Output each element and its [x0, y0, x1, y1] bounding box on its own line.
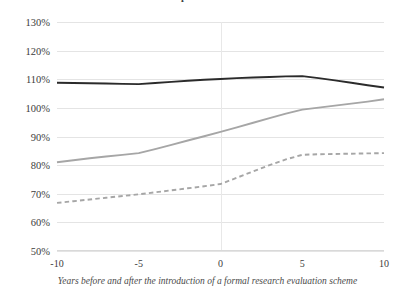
x-axis-caption: Years before and after the introduction … — [0, 276, 415, 286]
y-tick-label: 130% — [26, 17, 51, 28]
x-tick-label: 5 — [300, 258, 305, 269]
x-tick-label: -5 — [135, 258, 143, 269]
series-lines — [57, 22, 384, 251]
y-tick-label: 110% — [26, 74, 50, 85]
y-tick-label: 60% — [31, 217, 50, 228]
y-tick-label: 90% — [31, 131, 50, 142]
series-line-middle-group — [57, 99, 384, 162]
y-tick-label: 50% — [31, 246, 50, 257]
y-tick-label: 80% — [31, 160, 50, 171]
x-tick-label: 10 — [379, 258, 389, 269]
y-tick-label: 120% — [26, 45, 51, 56]
plot-area: 50%60%70%80%90%100%110%120%130% -10-5051… — [57, 22, 384, 251]
series-line-top-group — [57, 76, 384, 87]
series-line-bottom-group — [57, 153, 384, 203]
y-tick-label: 100% — [26, 102, 51, 113]
chart-container: Normalised citation impact 50%60%70%80%9… — [0, 0, 415, 300]
x-tick-label: 0 — [218, 258, 223, 269]
y-tick-label: 70% — [31, 188, 50, 199]
x-tick-label: -10 — [50, 258, 63, 269]
chart-title: Normalised citation impact — [74, 0, 374, 5]
gridline — [57, 251, 384, 252]
